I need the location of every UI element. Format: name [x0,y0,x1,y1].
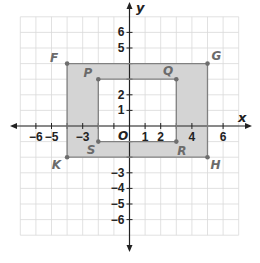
y-tick-label: 1 [118,103,125,117]
y-tick-label: −4 [111,181,125,195]
vertex-label-h: H [211,158,221,172]
y-axis-arrow-down-icon [127,245,133,252]
y-tick-label: −3 [111,166,125,180]
vertex-label-r: R [177,144,186,158]
y-tick-label: −6 [111,213,125,227]
vertex-label-s: S [87,143,96,157]
x-tick-label: −6 [29,130,43,144]
vertex-label-f: F [50,51,59,65]
vertex-point-p [96,77,101,82]
vertex-label-k: K [52,158,63,172]
y-tick-label: −5 [111,197,125,211]
vertex-point-h [205,155,210,160]
x-tick-label: 4 [189,130,196,144]
y-tick-label: 6 [118,25,125,39]
x-axis-label: x [237,110,247,125]
vertex-label-g: G [212,49,222,63]
vertex-point-g [205,61,210,66]
y-axis-arrow-up-icon [127,2,133,9]
vertex-label-p: P [84,66,93,80]
vertex-point-s [96,139,101,144]
axes [10,2,252,252]
x-tick-label: 6 [220,130,227,144]
x-tick-label: −5 [45,130,59,144]
y-tick-label: 2 [118,88,125,102]
y-tick-label: 5 [118,41,125,55]
vertex-point-q [174,77,179,82]
origin-label: O [118,129,128,143]
vertex-label-q: Q [163,64,173,78]
vertex-point-k [65,155,70,160]
coordinate-plane: −6−5−312466521−3−4−5−6 FGHKPQRS x y O [0,0,260,263]
vertex-point-f [65,61,70,66]
x-axis-arrow-left-icon [10,123,17,129]
y-axis-label: y [136,0,145,15]
